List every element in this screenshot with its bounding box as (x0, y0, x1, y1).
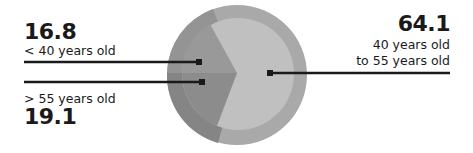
callout-dot-mid (267, 70, 273, 76)
label-mid-line1: 40 years old (373, 37, 450, 52)
value-under40: 16.8 (24, 21, 76, 43)
value-mid: 64.1 (398, 13, 450, 35)
label-mid-line2: to 55 years old (356, 53, 450, 68)
callout-dot-under40 (196, 59, 202, 65)
callout-dot-over55 (199, 79, 205, 85)
value-over55: 19.1 (24, 106, 76, 128)
label-under40: < 40 years old (24, 43, 116, 58)
